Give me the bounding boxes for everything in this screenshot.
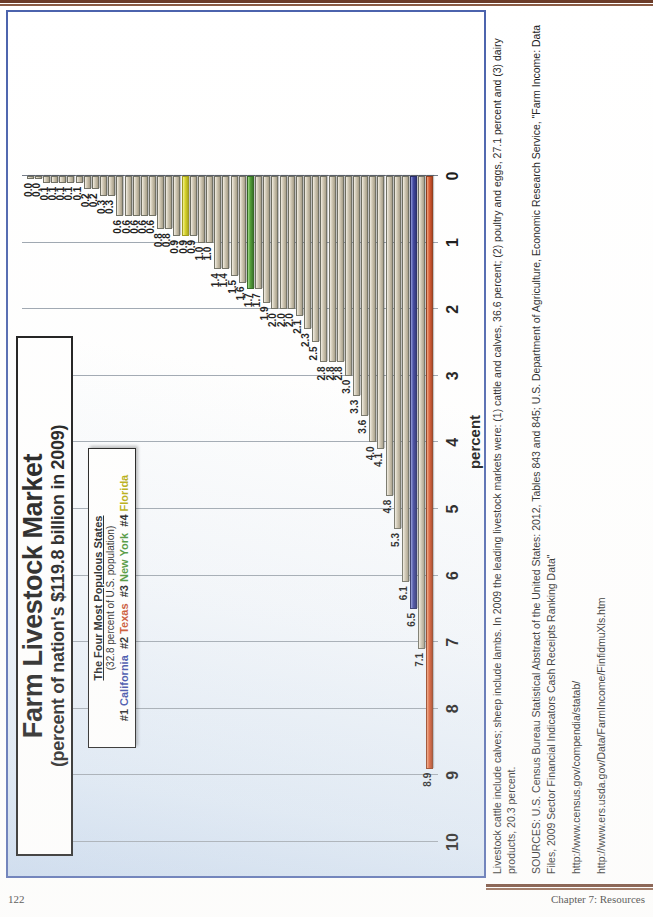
bar-montana[interactable] [173, 176, 180, 236]
bar-florida[interactable] [182, 176, 189, 236]
bar-louisiana[interactable] [149, 176, 156, 216]
legend-entries: #1 California #2 Texas #3 New York #4 Fl… [118, 455, 130, 741]
legend-state-florida: Florida [118, 475, 130, 512]
page-rule-top-thick [0, 0, 653, 3]
bar-row: 0.8Oregon [157, 176, 164, 876]
bar-south-dakota[interactable] [271, 176, 278, 309]
bar-nebraska[interactable] [402, 176, 409, 582]
bar-missouri[interactable] [320, 176, 327, 362]
bar-delaware[interactable] [133, 176, 140, 216]
tick-label-5: 5 [444, 505, 462, 514]
bar-arizona[interactable] [198, 176, 205, 243]
bar-kentucky[interactable] [288, 176, 295, 309]
page-title: Farm Livestock Market [20, 346, 48, 846]
bar-row: 6.1Nebraska [402, 176, 409, 876]
bar-row: 1.6Michigan [239, 176, 246, 876]
bar-row: 2.0Indiana [280, 176, 287, 876]
bar-michigan[interactable] [239, 176, 246, 283]
source-url-census[interactable]: http://www.census.gov/compendia/statab/ [569, 14, 583, 874]
bar-colorado[interactable] [329, 176, 336, 362]
bar-iowa[interactable] [418, 176, 425, 649]
bar-row: 2.8Colorado [329, 176, 336, 876]
bar-pennsylvania[interactable] [312, 176, 319, 343]
bar-new-hampshire[interactable] [51, 176, 58, 183]
plot-area: 109876543210 percent 8.9Texas7.1Iowa6.5C… [8, 10, 486, 876]
bar-arkansas[interactable] [353, 176, 360, 396]
legend-state-california: California [118, 655, 130, 706]
bar-indiana[interactable] [280, 176, 287, 309]
bar-wyoming[interactable] [116, 176, 123, 216]
bar-rhode-island[interactable] [35, 176, 42, 179]
bar-oklahoma[interactable] [345, 176, 352, 376]
bar-oregon[interactable] [157, 176, 164, 229]
bar-north-dakota[interactable] [141, 176, 148, 216]
bar-row: 0.6Louisiana [149, 176, 156, 876]
page-rule-bottom-thin [486, 888, 653, 890]
legend-state-texas: Texas [118, 603, 130, 633]
bar-row: 1.5Illinois [231, 176, 238, 876]
legend-state-new-york: New York [118, 533, 130, 582]
bar-california[interactable] [410, 176, 417, 609]
legend-spacer [118, 649, 130, 655]
bar-row: 1.0Arizona [198, 176, 205, 876]
source-url-usda[interactable]: http://www.ers.usda.gov/Data/FarmIncome/… [594, 14, 608, 874]
bar-ohio[interactable] [263, 176, 270, 303]
bar-alaska[interactable] [27, 176, 34, 179]
bar-row: 1.0South Carolina [206, 176, 213, 876]
tick-label-10: 10 [444, 833, 462, 851]
bar-idaho[interactable] [296, 176, 303, 316]
bar-row: 0.6North Dakota [141, 176, 148, 876]
bar-row: 0.9Florida [182, 176, 189, 876]
bar-row: 6.5California [410, 176, 417, 876]
tick-label-3: 3 [444, 371, 462, 380]
bar-virginia[interactable] [214, 176, 221, 269]
bar-new-york[interactable] [247, 176, 254, 289]
legend-spacer [118, 597, 130, 603]
chart-subtitle: (percent of nation's $119.8 billion in 2… [49, 346, 68, 846]
bar-georgia[interactable] [361, 176, 368, 416]
bar-south-carolina[interactable] [206, 176, 213, 243]
page-number: 122 [8, 893, 25, 905]
bar-tennessee[interactable] [190, 176, 197, 236]
bar-washington[interactable] [222, 176, 229, 269]
bar-hawaii[interactable] [43, 176, 50, 183]
tick-label-2: 2 [444, 305, 462, 314]
bar-wisconsin[interactable] [369, 176, 376, 442]
tick-label-8: 8 [444, 704, 462, 713]
tick-label-4: 4 [444, 438, 462, 447]
bar-row: 3.0Oklahoma [345, 176, 352, 876]
bar-minnesota[interactable] [377, 176, 384, 449]
notes-text: Livestock cattle include calves; sheep i… [490, 14, 650, 874]
bar-new-mexico[interactable] [255, 176, 262, 289]
bar-connecticut[interactable] [76, 176, 83, 183]
bar-row: 0.1Connecticut [76, 176, 83, 876]
bar-alabama[interactable] [337, 176, 344, 362]
bar-new-jersey[interactable] [67, 176, 74, 183]
bar-mississippi[interactable] [304, 176, 311, 329]
tick-label-7: 7 [444, 638, 462, 647]
bar-utah[interactable] [125, 176, 132, 216]
bar-north-carolina[interactable] [386, 176, 393, 496]
bar-row: 0.9Tennessee [190, 176, 197, 876]
bar-vermont[interactable] [100, 176, 107, 196]
bar-illinois[interactable] [231, 176, 238, 276]
bar-texas[interactable] [426, 176, 433, 769]
footnote-text: Livestock cattle include calves; sheep i… [490, 14, 518, 874]
bar-nevada[interactable] [92, 176, 99, 189]
bar-row: 5.3Kansas [394, 176, 401, 876]
scanned-page: 122 Chapter 7: Resources 109876543210 pe… [0, 0, 653, 917]
bar-row: 7.1Iowa [418, 176, 425, 876]
bar-maryland[interactable] [165, 176, 172, 229]
legend-rank-3: #3 [118, 582, 130, 597]
bar-kansas[interactable] [394, 176, 401, 529]
page-rule-top-thin [0, 4, 653, 6]
bar-row: 4.0Wisconsin [369, 176, 376, 876]
page-rule-bottom-thick [486, 884, 653, 887]
bar-row: 2.0Kentucky [288, 176, 295, 876]
tick-label-0: 0 [444, 172, 462, 181]
bar-massachusetts[interactable] [59, 176, 66, 183]
notes-column: Livestock cattle include calves; sheep i… [486, 8, 653, 880]
bar-row: 1.9Ohio [263, 176, 270, 876]
bar-west-virginia[interactable] [108, 176, 115, 196]
bar-maine[interactable] [84, 176, 91, 189]
